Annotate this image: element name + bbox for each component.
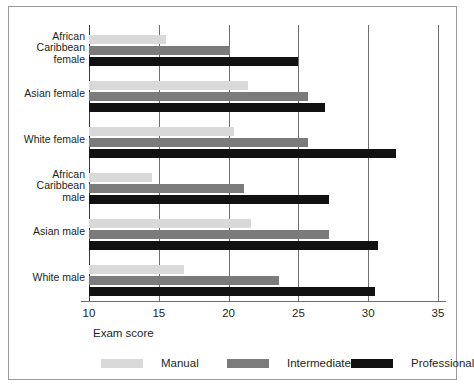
bar-professional [89,149,396,158]
x-tick-label-25: 25 [292,307,305,319]
gridline-35 [438,25,439,301]
chart-figure: African Caribbean femaleAsian femaleWhit… [8,6,457,380]
category-label: African Caribbean female [7,31,85,66]
bar-group [89,163,438,209]
category-label: African Caribbean male [7,169,85,204]
category-label-column: African Caribbean femaleAsian femaleWhit… [9,25,85,301]
bar-group [89,25,438,71]
bar-manual [89,265,184,274]
bar-professional [89,287,375,296]
legend-label-professional: Professional [411,357,474,369]
bar-intermediate [89,276,279,285]
bar-intermediate [89,184,244,193]
bar-manual [89,127,234,136]
bar-group [89,255,438,301]
bar-manual [89,35,166,44]
bar-group [89,117,438,163]
legend-item-professional: Professional [351,357,474,369]
category-label: Asian female [7,88,85,100]
x-tick-label-15: 15 [152,307,165,319]
legend-item-manual: Manual [101,357,199,369]
chart-legend: Manual Intermediate Professional [9,357,456,377]
legend-item-intermediate: Intermediate [227,357,351,369]
x-tick-label-35: 35 [432,307,445,319]
bar-manual [89,219,251,228]
bar-intermediate [89,138,308,147]
bar-intermediate [89,92,308,101]
bar-intermediate [89,230,329,239]
bar-intermediate [89,46,230,55]
legend-label-intermediate: Intermediate [287,357,351,369]
plot-area [89,25,438,301]
legend-label-manual: Manual [161,357,199,369]
bar-professional [89,195,329,204]
category-label: White male [7,272,85,284]
x-axis-baseline [81,301,446,302]
x-axis-title: Exam score [93,327,154,339]
x-tick-label-20: 20 [222,307,235,319]
category-label: White female [7,134,85,146]
bar-manual [89,173,152,182]
legend-swatch-professional [351,359,393,368]
category-label: Asian male [7,226,85,238]
legend-swatch-intermediate [227,359,269,368]
bar-professional [89,57,298,66]
bar-professional [89,241,378,250]
bar-group [89,71,438,117]
legend-swatch-manual [101,359,143,368]
bar-manual [89,81,248,90]
x-tick-label-10: 10 [83,307,96,319]
x-tick-label-30: 30 [362,307,375,319]
bar-group [89,209,438,255]
bar-professional [89,103,325,112]
